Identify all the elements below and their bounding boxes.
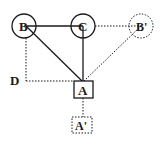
geometry-diagram: B C B' D A A' (0, 0, 162, 144)
node-c-label: C (78, 19, 87, 34)
node-aprime-label: A' (75, 119, 87, 133)
node-a-label: A (78, 83, 88, 98)
node-b-label: B (19, 19, 28, 34)
node-bprime-label: B' (136, 20, 147, 34)
point-d-label: D (10, 73, 19, 88)
